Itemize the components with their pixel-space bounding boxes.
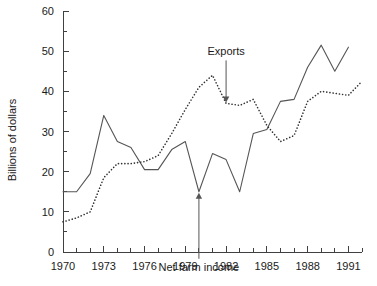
y-axis-tick-labels: 0102030405060 [42, 5, 54, 258]
x-tick-label: 1988 [295, 260, 319, 272]
x-tick-label: 1970 [51, 260, 75, 272]
series-line-exports [63, 75, 362, 222]
y-tick-label: 50 [42, 45, 54, 57]
annotation-arrow-head [223, 96, 229, 102]
annotation-label: Exports [207, 45, 245, 57]
y-axis-title: Billions of dollars [6, 98, 18, 181]
y-tick-label: 10 [42, 206, 54, 218]
x-tick-label: 1985 [255, 260, 279, 272]
line-chart: 0102030405060 19701973197619791982198519… [0, 0, 377, 286]
y-tick-label: 60 [42, 5, 54, 17]
annotation-label: Net farm income [159, 261, 240, 273]
x-tick-label: 1976 [132, 260, 156, 272]
x-tick-label: 1973 [92, 260, 116, 272]
y-tick-label: 20 [42, 166, 54, 178]
y-tick-label: 30 [42, 126, 54, 138]
y-tick-label: 0 [48, 246, 54, 258]
chart-annotations: ExportsNet farm income [159, 45, 246, 272]
series-line-net-farm-income [63, 45, 348, 192]
x-tick-label: 1991 [336, 260, 360, 272]
chart-container: 0102030405060 19701973197619791982198519… [0, 0, 377, 286]
annotation-arrow-head [196, 193, 202, 199]
chart-series-group [63, 45, 362, 222]
y-tick-label: 40 [42, 85, 54, 97]
